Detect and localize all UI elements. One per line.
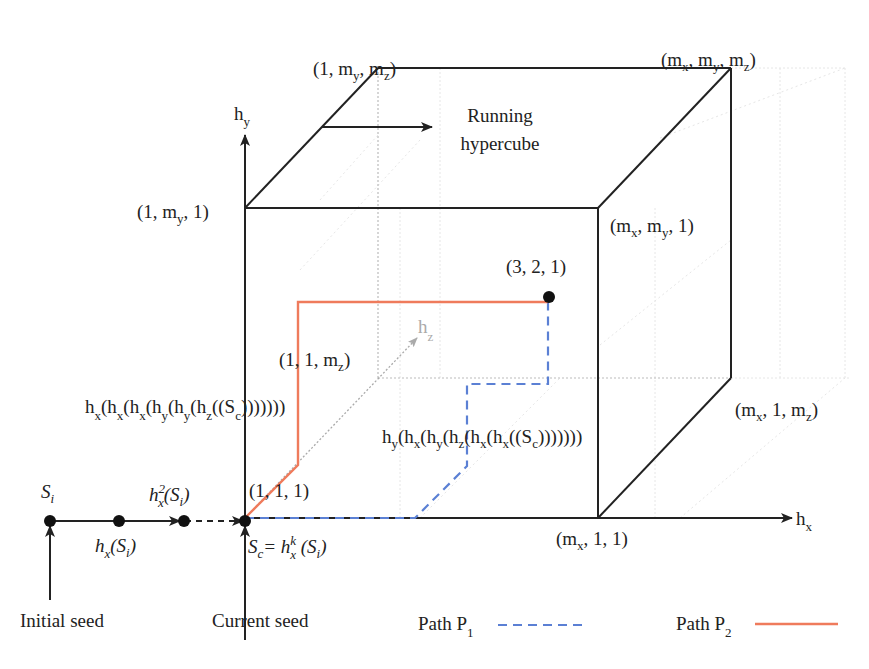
seed-hx2-label: h2x(Si) [149,481,190,510]
corner-front-top-left: (1, my, 1) [137,201,209,226]
hy-axis-label: hy [234,103,251,129]
seed-sc-label: Sc= hkx (Si) [248,533,326,562]
corner-origin: (1, 1, 1) [249,480,309,502]
corner-front-bottom-right: (mx, 1, 1) [556,528,628,553]
ghost-grid [300,68,850,518]
seed-dot-hx [113,515,125,527]
hypercube-diagram: hz hy hx Running hypercube (1, my, mz) (… [0,0,869,669]
corner-back-bottom-right: (mx, 1, mz) [735,399,818,424]
hz-axis-label: hz [418,316,434,344]
running-label-2: hypercube [460,133,539,154]
target-point-label: (3, 2, 1) [506,256,566,278]
seed-hx-label: hx(Si) [95,535,136,561]
legend-p1-label: Path P1 [418,613,474,640]
corner-top-back-left: (1, my, mz) [313,58,396,83]
corner-front-top-right: (mx, my, 1) [610,215,694,240]
current-seed-label: Current seed [212,610,309,631]
seed-dot-si [44,515,56,527]
seed-dot-sc [239,515,251,527]
target-point-dot [543,291,555,303]
seed-si-label: Si [41,481,55,506]
legend: Path P1 Path P2 [418,613,838,640]
corner-back-bottom-left: (1, 1, mz) [279,349,350,374]
path-p1-expression: hy(hx(hy(hz(hx(hx((Sc))))))) [382,426,582,451]
seed-dot-hx2 [178,515,190,527]
initial-seed-label: Initial seed [20,610,104,631]
path-p2-expression: hx(hx(hx(hy(hy(hz((Sc))))))) [85,396,285,423]
legend-p2-label: Path P2 [676,613,732,640]
corner-top-back-right: (mx, my, mz) [661,49,756,74]
running-label: Running [467,105,533,126]
hx-axis-label: hx [796,508,813,534]
